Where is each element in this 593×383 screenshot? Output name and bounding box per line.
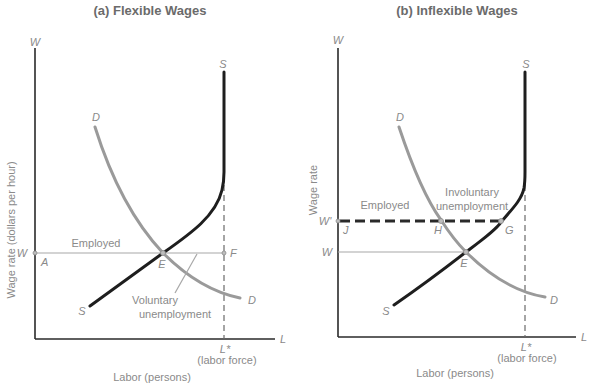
point-a-label: A	[40, 256, 48, 268]
point-f-label: F	[230, 247, 238, 259]
w-tick: W	[322, 246, 334, 258]
y-axis-letter: W	[30, 36, 42, 48]
w-tick: W	[17, 247, 29, 259]
panel-a-title: (a) Flexible Wages	[94, 3, 207, 18]
demand-curve	[95, 127, 240, 298]
labor-market-figure: (a) Flexible Wages W L Wage rate (dollar…	[0, 0, 593, 383]
d-bottom-label: D	[248, 294, 256, 306]
demand-curve	[399, 127, 545, 297]
supply-curve	[90, 72, 224, 306]
point-j-label: J	[342, 224, 349, 236]
labor-force-label: (labor force)	[497, 352, 556, 364]
voluntary-label-1: Voluntary	[132, 294, 178, 306]
point-e-marker	[161, 251, 166, 256]
voluntary-label-2: unemployment	[139, 308, 211, 320]
labor-force-label: (labor force)	[197, 354, 256, 366]
point-e-marker	[464, 250, 469, 255]
point-g-label: G	[505, 224, 514, 236]
pointer-line	[175, 254, 197, 293]
involuntary-label-1: Involuntary	[445, 186, 499, 198]
x-axis-letter: L	[581, 331, 587, 343]
point-e-label: E	[460, 257, 468, 269]
x-axis-letter: L	[280, 333, 286, 345]
d-bottom-label: D	[550, 294, 558, 306]
point-h-marker	[439, 219, 444, 224]
employed-label: Employed	[361, 199, 410, 211]
x-axis-label: Labor (persons)	[416, 367, 494, 379]
panel-flexible-wages: (a) Flexible Wages W L Wage rate (dollar…	[5, 3, 286, 383]
y-axis-label: Wage rate (dollars per hour)	[5, 161, 17, 298]
s-top-label: S	[219, 58, 227, 70]
point-h-label: H	[434, 224, 442, 236]
panel-b-title: (b) Inflexible Wages	[396, 3, 518, 18]
involuntary-label-2: unemployment	[436, 200, 508, 212]
point-g-marker	[499, 219, 504, 224]
employed-label: Employed	[72, 237, 121, 249]
s-bottom-label: S	[382, 305, 390, 317]
point-j-marker	[336, 219, 340, 223]
point-f-marker	[222, 251, 226, 255]
y-axis-label: Wage rate	[307, 165, 319, 215]
s-top-label: S	[522, 58, 530, 70]
panel-inflexible-wages: (b) Inflexible Wages W L Wage rate L* (l…	[307, 3, 587, 379]
x-axis-label: Labor (persons)	[113, 371, 191, 383]
y-axis-letter: W	[333, 34, 345, 46]
d-top-label: D	[396, 111, 404, 123]
point-e-label: E	[158, 258, 166, 270]
s-bottom-label: S	[78, 305, 86, 317]
w-prime-tick: W'	[319, 215, 332, 227]
point-a-marker	[33, 251, 37, 255]
d-top-label: D	[92, 111, 100, 123]
